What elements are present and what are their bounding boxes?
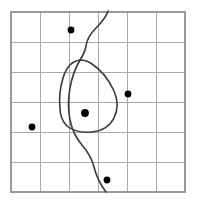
point-left xyxy=(29,124,36,131)
points-group xyxy=(29,27,132,184)
grid-group xyxy=(11,12,185,192)
point-right xyxy=(125,91,132,98)
point-center xyxy=(81,109,89,117)
point-bottom xyxy=(104,177,111,184)
grid-curve-figure xyxy=(0,0,197,206)
point-top xyxy=(68,27,75,34)
figure-canvas xyxy=(0,0,197,206)
